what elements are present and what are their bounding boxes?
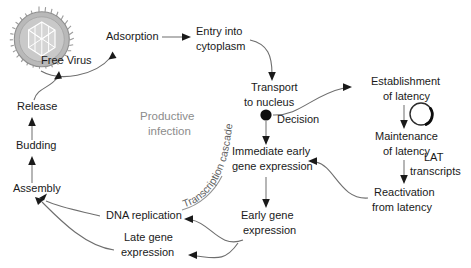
diagram-canvas: Transcription cascade Free Virus Adsorpt…	[0, 0, 471, 268]
node-label-transport-line1: Transport	[251, 81, 298, 93]
node-label-early-line1: Early gene	[241, 209, 294, 221]
edge-dna-replication-to-assembly	[39, 194, 100, 217]
edge-immediate-early-to-early	[262, 177, 270, 208]
edge-adsorption-to-entry	[162, 33, 191, 41]
node-label-assembly: Assembly	[13, 182, 61, 194]
annotation-productive-line1: Productive	[140, 110, 194, 122]
node-label-dna-replication: DNA replication	[106, 209, 182, 221]
edge-maintenance-to-reactivation	[400, 160, 408, 184]
node-label-establishment-line2: of latency	[383, 90, 431, 102]
node-label-establishment-line1: Establishment	[371, 75, 440, 87]
node-label-release: Release	[17, 100, 57, 112]
node-label-lat-line1: LAT	[424, 151, 444, 163]
edge-early-to-late	[188, 243, 238, 259]
node-label-reactivation-line2: from latency	[372, 201, 432, 213]
edge-early-to-dna-replication	[184, 215, 243, 242]
node-label-budding: Budding	[16, 139, 56, 151]
edge-establishment-to-maintenance	[400, 105, 408, 129]
edge-release-to-free-virus	[34, 71, 62, 100]
node-label-entry-line2: cytoplasm	[196, 40, 246, 52]
node-label-early-line2: expression	[243, 224, 296, 236]
annotation-productive-line2: infection	[148, 125, 191, 137]
node-label-late-line2: expression	[121, 246, 174, 258]
edge-late-to-assembly	[35, 197, 114, 250]
node-label-adsorption: Adsorption	[106, 30, 159, 42]
node-label-lat-line2: transcripts	[410, 165, 461, 177]
edge-assembly-to-budding	[28, 156, 36, 183]
node-label-decision: Decision	[277, 113, 319, 125]
node-label-maintenance-line1: Maintenance	[375, 130, 438, 142]
edge-reactivation-to-immediate-early	[308, 157, 368, 198]
node-label-late-line1: Late gene	[124, 231, 173, 243]
node-label-entry-line1: Entry into	[196, 25, 242, 37]
edge-entry-to-transport	[250, 40, 276, 81]
node-label-reactivation-line1: Reactivation	[374, 186, 435, 198]
node-label-transport-line2: to nucleus	[244, 96, 295, 108]
virus-lifecycle-diagram: Transcription cascade Free Virus Adsorpt…	[0, 0, 471, 268]
node-label-immediate-line1: Immediate early	[232, 145, 311, 157]
decision-node-dot	[260, 109, 271, 120]
edge-budding-to-release	[28, 117, 36, 140]
node-label-immediate-line2: gene expression	[232, 160, 313, 172]
edge-decision-to-immediate-early	[262, 121, 270, 145]
circular-episome-icon	[410, 103, 432, 125]
node-label-free-virus: Free Virus	[41, 54, 92, 66]
